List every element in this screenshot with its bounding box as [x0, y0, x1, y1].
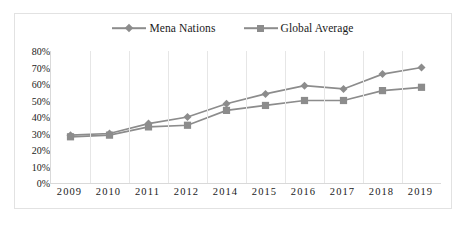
data-point-square-marker	[262, 102, 269, 109]
plot-wrapper: 0%10%20%30%40%50%60%70%80% 2009201020112…	[14, 13, 452, 209]
x-axis-tick: 2019	[408, 186, 433, 197]
data-point-diamond-marker	[340, 85, 348, 93]
gridline-vertical	[246, 51, 247, 183]
data-point-diamond-marker	[418, 64, 426, 72]
gridline-vertical	[285, 51, 286, 183]
data-point-square-marker	[418, 84, 425, 91]
data-point-diamond-marker	[223, 100, 231, 108]
data-point-square-marker	[145, 123, 152, 130]
gridline-vertical	[168, 51, 169, 183]
data-point-square-marker	[379, 87, 386, 94]
data-point-square-marker	[301, 97, 308, 104]
data-point-square-marker	[106, 132, 113, 139]
gridline-vertical	[402, 51, 403, 183]
y-axis-tick: 60%	[32, 79, 50, 90]
y-axis-tick: 50%	[32, 95, 50, 106]
x-axis-tick-labels: 2009201020112012201420152016201720182019	[50, 186, 440, 204]
data-point-square-marker	[223, 107, 230, 114]
y-axis-tick: 20%	[32, 145, 50, 156]
x-axis-tick: 2016	[291, 186, 316, 197]
y-axis-tick-labels: 0%10%20%30%40%50%60%70%80%	[20, 51, 50, 183]
x-axis-tick: 2011	[135, 186, 160, 197]
x-axis-tick: 2012	[174, 186, 199, 197]
y-axis-tick: 30%	[32, 128, 50, 139]
x-axis-tick: 2010	[96, 186, 121, 197]
gridline-vertical	[363, 51, 364, 183]
y-axis-tick: 40%	[32, 112, 50, 123]
gridline-vertical	[324, 51, 325, 183]
y-axis-tick: 0%	[37, 178, 50, 189]
x-axis-tick: 2017	[330, 186, 355, 197]
gridline-vertical	[207, 51, 208, 183]
x-axis-tick: 2009	[57, 186, 82, 197]
data-point-square-marker	[67, 133, 74, 140]
x-axis-tick: 2014	[213, 186, 238, 197]
y-axis-tick: 10%	[32, 161, 50, 172]
y-axis-tick: 80%	[32, 46, 50, 57]
data-point-square-marker	[340, 97, 347, 104]
data-point-diamond-marker	[301, 82, 309, 90]
square-marker-icon	[257, 25, 264, 32]
data-point-square-marker	[184, 122, 191, 129]
data-point-diamond-marker	[262, 90, 270, 98]
x-axis-tick: 2018	[369, 186, 394, 197]
data-point-diamond-marker	[379, 70, 387, 78]
data-point-diamond-marker	[184, 113, 192, 121]
plot-area	[50, 51, 441, 184]
x-axis-tick: 2015	[252, 186, 277, 197]
gridline-vertical	[129, 51, 130, 183]
gridline-vertical	[90, 51, 91, 183]
y-axis-tick: 70%	[32, 62, 50, 73]
